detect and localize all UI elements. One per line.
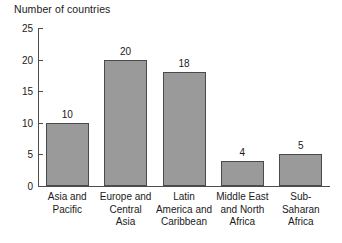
plot-area: 10201845 — [38, 28, 330, 186]
x-category-label-line: Asia — [96, 216, 154, 229]
bar[interactable]: 5 — [279, 154, 322, 186]
x-category-label-line: Asia and — [38, 191, 96, 204]
y-tick-mark — [39, 186, 43, 187]
x-category-label-line: Caribbean — [155, 216, 213, 229]
chart-title: Number of countries — [14, 3, 110, 15]
x-category-label-line: and North — [213, 204, 271, 217]
y-tick-label: 20 — [3, 56, 38, 66]
bar[interactable]: 10 — [46, 123, 89, 186]
x-category-label: Sub-SaharanAfrica — [272, 191, 330, 229]
x-category-label-line: Pacific — [38, 204, 96, 217]
bar-value-label: 5 — [298, 141, 304, 151]
x-category-label-line: Latin — [155, 191, 213, 204]
x-category-label: LatinAmerica andCaribbean — [155, 191, 213, 229]
bar-group: 18 — [163, 28, 206, 186]
x-category-label-line: Central — [96, 204, 154, 217]
y-tick-label: 5 — [3, 150, 38, 160]
bar[interactable]: 18 — [163, 72, 206, 186]
bar-value-label: 10 — [62, 110, 73, 120]
bar-value-label: 18 — [178, 59, 189, 69]
x-axis-line — [38, 186, 330, 187]
x-category-label-line: Saharan — [272, 204, 330, 217]
bar-group: 10 — [46, 28, 89, 186]
y-tick-label: 0 — [3, 182, 38, 192]
x-category-label-line: America and — [155, 204, 213, 217]
y-tick-label: 15 — [3, 87, 38, 97]
x-category-label-line: Africa — [272, 216, 330, 229]
x-category-label-line: Middle East — [213, 191, 271, 204]
y-tick-label: 10 — [3, 119, 38, 129]
x-category-label-line: Europe and — [96, 191, 154, 204]
x-category-label-line: Africa — [213, 216, 271, 229]
bar-group: 5 — [279, 28, 322, 186]
bar[interactable]: 20 — [104, 60, 147, 186]
bar-group: 20 — [104, 28, 147, 186]
bar-group: 4 — [221, 28, 264, 186]
bar-chart: Number of countries 0510152025 10201845 … — [0, 0, 342, 243]
x-category-label: Europe andCentralAsia — [96, 191, 154, 229]
bar[interactable]: 4 — [221, 161, 264, 186]
x-category-label: Middle Eastand NorthAfrica — [213, 191, 271, 229]
y-tick-label: 25 — [3, 24, 38, 34]
bar-value-label: 20 — [120, 47, 131, 57]
bar-value-label: 4 — [240, 148, 246, 158]
x-category-label-line: Sub- — [272, 191, 330, 204]
x-category-label: Asia andPacific — [38, 191, 96, 216]
